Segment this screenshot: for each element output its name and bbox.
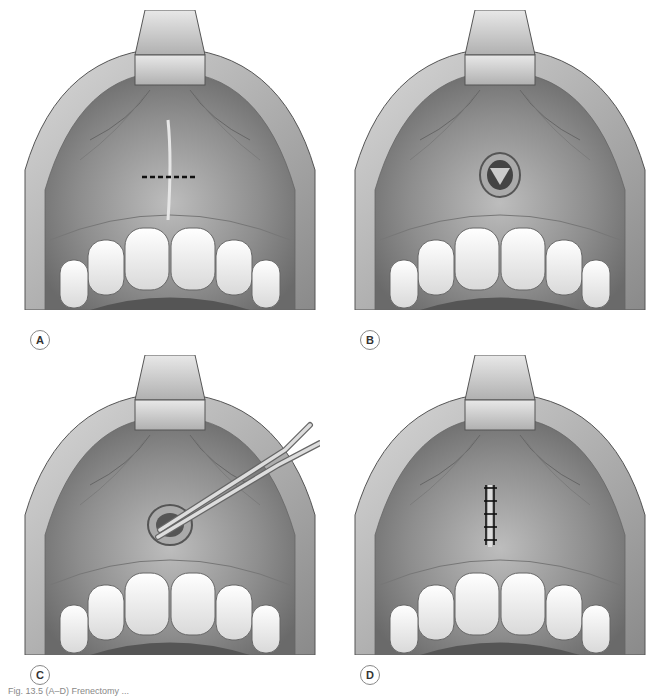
panel-label-c: C [30,665,50,685]
illustration-a [20,10,320,310]
panel-c-tissue-removal [20,355,320,655]
illustration-d [350,355,650,655]
panel-label-b: B [360,330,380,350]
panel-label-d: D [360,665,380,685]
figure-caption: Fig. 13.5 (A–D) Frenectomy ... [8,686,129,696]
illustration-b [350,10,650,310]
illustration-c [20,355,320,655]
panel-d-sutured [350,355,650,655]
panel-b-frenum-excised [350,10,650,310]
panel-label-a: A [30,330,50,350]
panel-a-incision-marked [20,10,320,310]
